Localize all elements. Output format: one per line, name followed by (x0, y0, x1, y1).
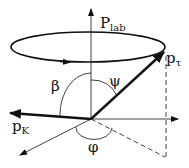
phi-label: φ (88, 138, 99, 156)
psi-label: ψ (109, 72, 121, 90)
beta-label: β (51, 77, 60, 95)
ellipse-direction-arrow (60, 62, 70, 63)
p-lab-label: Plab (100, 14, 126, 33)
precession-ellipse (11, 32, 165, 62)
beta-arc (60, 73, 91, 116)
y-axis (20, 119, 91, 155)
p-k-label: pK (12, 117, 30, 136)
vector-diagram: Plab pτ pK β ψ φ (0, 0, 189, 168)
p-k-vector (10, 113, 91, 119)
p-tau-label: pτ (166, 49, 182, 68)
